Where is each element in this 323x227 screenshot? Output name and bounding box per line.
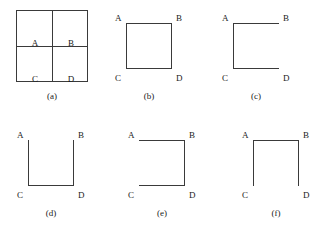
panel-caption-d: (d) [31,209,71,218]
vertex-label-c-c: C [222,74,228,83]
grid-outline: A B C D [16,10,88,82]
vertex-label-a-e: A [128,131,135,140]
panel-a: A B C D (a) [16,10,88,106]
vertex-label-b-e: B [189,131,195,140]
square-outline-b [126,23,172,69]
vertex-label-a-c: A [222,14,229,23]
figure-root: A B C D (a) A B C D (b) A B C D (c) [0,0,323,227]
edge-bottom-c [233,68,279,69]
panel-f: A B C D (f) [253,140,299,223]
edge-top-e [139,140,185,141]
panel-caption-e: (e) [142,209,182,218]
edge-bottom-d [28,185,74,186]
edge-top-f [253,140,299,141]
vertex-label-d-f: D [303,191,310,200]
grid-cell-label-d: D [66,75,76,84]
panel-e: A B C D (e) [139,140,185,223]
vertex-label-d-b: D [176,74,183,83]
vertex-label-c-b: C [115,74,121,83]
grid-cell-label-c: C [30,75,40,84]
square-outline-e [139,140,185,186]
edge-top-c [233,23,279,24]
vertex-label-d-e: D [189,191,196,200]
edge-right-d [73,140,74,186]
panel-caption-c: (c) [236,92,276,101]
vertex-label-d-c: D [283,74,290,83]
edge-left-b [126,23,127,69]
panel-b: A B C D (b) [126,23,172,106]
edge-left-c [233,23,234,69]
edge-bottom-e [139,185,185,186]
edge-right-f [298,140,299,186]
edge-right-b [171,23,172,69]
vertex-label-a-b: A [115,14,122,23]
vertex-label-b-c: B [283,14,289,23]
panel-caption-f: (f) [256,209,296,218]
vertex-label-a-f: A [242,131,249,140]
grid-divider-horizontal [17,46,87,47]
edge-left-d [28,140,29,186]
vertex-label-a-d: A [17,131,24,140]
panel-caption-a: (a) [32,92,72,101]
vertex-label-b-b: B [176,14,182,23]
edge-bottom-b [126,68,172,69]
square-outline-c [233,23,279,69]
square-outline-d [28,140,74,186]
vertex-label-b-f: B [303,131,309,140]
edge-top-b [126,23,172,24]
vertex-label-d-d: D [78,191,85,200]
square-outline-f [253,140,299,186]
vertex-label-c-d: C [17,191,23,200]
panel-d: A B C D (d) [28,140,74,223]
edge-right-e [184,140,185,186]
edge-left-f [253,140,254,186]
vertex-label-c-e: C [128,191,134,200]
panel-caption-b: (b) [129,92,169,101]
vertex-label-c-f: C [242,191,248,200]
grid-cell-label-b: B [66,39,76,48]
panel-c: A B C D (c) [233,23,279,106]
grid-cell-label-a: A [30,39,40,48]
vertex-label-b-d: B [78,131,84,140]
